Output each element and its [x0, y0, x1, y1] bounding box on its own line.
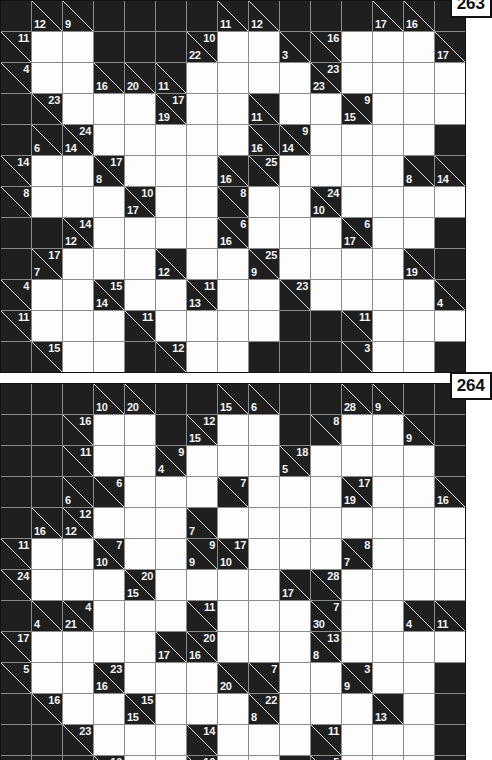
kakuro-entry-cell[interactable]: [32, 280, 62, 310]
kakuro-entry-cell[interactable]: [156, 508, 186, 538]
kakuro-entry-cell[interactable]: [218, 632, 248, 662]
kakuro-entry-cell[interactable]: [94, 94, 124, 124]
kakuro-entry-cell[interactable]: [218, 125, 248, 155]
kakuro-entry-cell[interactable]: [218, 280, 248, 310]
kakuro-entry-cell[interactable]: [32, 570, 62, 600]
kakuro-entry-cell[interactable]: [63, 632, 93, 662]
kakuro-entry-cell[interactable]: [404, 570, 434, 600]
kakuro-entry-cell[interactable]: [125, 539, 155, 569]
kakuro-entry-cell[interactable]: [342, 249, 372, 279]
kakuro-entry-cell[interactable]: [249, 280, 279, 310]
kakuro-entry-cell[interactable]: [218, 311, 248, 341]
kakuro-entry-cell[interactable]: [63, 694, 93, 724]
kakuro-entry-cell[interactable]: [311, 280, 341, 310]
kakuro-entry-cell[interactable]: [63, 63, 93, 93]
kakuro-entry-cell[interactable]: [342, 125, 372, 155]
kakuro-entry-cell[interactable]: [435, 311, 465, 341]
kakuro-entry-cell[interactable]: [342, 446, 372, 476]
kakuro-entry-cell[interactable]: [156, 477, 186, 507]
kakuro-entry-cell[interactable]: [280, 725, 310, 755]
kakuro-entry-cell[interactable]: [32, 156, 62, 186]
kakuro-entry-cell[interactable]: [311, 446, 341, 476]
kakuro-entry-cell[interactable]: [373, 415, 403, 445]
kakuro-entry-cell[interactable]: [373, 601, 403, 631]
kakuro-entry-cell[interactable]: [125, 218, 155, 248]
kakuro-entry-cell[interactable]: [404, 508, 434, 538]
kakuro-entry-cell[interactable]: [435, 63, 465, 93]
kakuro-entry-cell[interactable]: [32, 632, 62, 662]
kakuro-entry-cell[interactable]: [125, 156, 155, 186]
kakuro-entry-cell[interactable]: [218, 756, 248, 760]
kakuro-entry-cell[interactable]: [249, 508, 279, 538]
kakuro-entry-cell[interactable]: [342, 280, 372, 310]
kakuro-entry-cell[interactable]: [187, 63, 217, 93]
kakuro-entry-cell[interactable]: [249, 539, 279, 569]
kakuro-grid-263[interactable]: 1291112171611102231617416201123232317191…: [1, 1, 465, 372]
kakuro-entry-cell[interactable]: [311, 663, 341, 693]
kakuro-entry-cell[interactable]: [311, 508, 341, 538]
kakuro-entry-cell[interactable]: [32, 311, 62, 341]
kakuro-entry-cell[interactable]: [218, 601, 248, 631]
kakuro-entry-cell[interactable]: [125, 632, 155, 662]
kakuro-entry-cell[interactable]: [94, 311, 124, 341]
kakuro-entry-cell[interactable]: [94, 249, 124, 279]
kakuro-entry-cell[interactable]: [373, 508, 403, 538]
kakuro-entry-cell[interactable]: [373, 632, 403, 662]
kakuro-entry-cell[interactable]: [404, 477, 434, 507]
kakuro-entry-cell[interactable]: [373, 218, 403, 248]
kakuro-entry-cell[interactable]: [373, 280, 403, 310]
kakuro-entry-cell[interactable]: [94, 601, 124, 631]
kakuro-entry-cell[interactable]: [404, 63, 434, 93]
kakuro-entry-cell[interactable]: [187, 156, 217, 186]
kakuro-entry-cell[interactable]: [249, 725, 279, 755]
kakuro-entry-cell[interactable]: [94, 632, 124, 662]
kakuro-entry-cell[interactable]: [156, 570, 186, 600]
kakuro-entry-cell[interactable]: [249, 570, 279, 600]
kakuro-entry-cell[interactable]: [404, 311, 434, 341]
kakuro-entry-cell[interactable]: [94, 218, 124, 248]
kakuro-entry-cell[interactable]: [94, 570, 124, 600]
kakuro-entry-cell[interactable]: [342, 570, 372, 600]
kakuro-entry-cell[interactable]: [311, 156, 341, 186]
kakuro-entry-cell[interactable]: [404, 342, 434, 372]
kakuro-entry-cell[interactable]: [280, 218, 310, 248]
kakuro-entry-cell[interactable]: [342, 187, 372, 217]
kakuro-entry-cell[interactable]: [94, 125, 124, 155]
kakuro-entry-cell[interactable]: [373, 446, 403, 476]
kakuro-entry-cell[interactable]: [63, 187, 93, 217]
kakuro-entry-cell[interactable]: [435, 187, 465, 217]
kakuro-entry-cell[interactable]: [435, 570, 465, 600]
kakuro-entry-cell[interactable]: [280, 156, 310, 186]
kakuro-entry-cell[interactable]: [342, 694, 372, 724]
kakuro-entry-cell[interactable]: [249, 632, 279, 662]
kakuro-entry-cell[interactable]: [156, 311, 186, 341]
kakuro-puzzle-264[interactable]: 1020156289161215891194185667171916161212…: [0, 383, 466, 760]
kakuro-entry-cell[interactable]: [435, 539, 465, 569]
kakuro-entry-cell[interactable]: [373, 156, 403, 186]
kakuro-entry-cell[interactable]: [125, 508, 155, 538]
kakuro-entry-cell[interactable]: [125, 415, 155, 445]
kakuro-entry-cell[interactable]: [280, 694, 310, 724]
kakuro-entry-cell[interactable]: [404, 446, 434, 476]
kakuro-entry-cell[interactable]: [280, 249, 310, 279]
kakuro-entry-cell[interactable]: [187, 342, 217, 372]
kakuro-entry-cell[interactable]: [404, 725, 434, 755]
kakuro-entry-cell[interactable]: [373, 94, 403, 124]
kakuro-entry-cell[interactable]: [249, 756, 279, 760]
kakuro-entry-cell[interactable]: [280, 632, 310, 662]
kakuro-entry-cell[interactable]: [373, 32, 403, 62]
kakuro-entry-cell[interactable]: [404, 94, 434, 124]
kakuro-entry-cell[interactable]: [156, 663, 186, 693]
kakuro-entry-cell[interactable]: [249, 63, 279, 93]
kakuro-entry-cell[interactable]: [373, 539, 403, 569]
kakuro-entry-cell[interactable]: [218, 249, 248, 279]
kakuro-entry-cell[interactable]: [32, 63, 62, 93]
kakuro-entry-cell[interactable]: [32, 187, 62, 217]
kakuro-entry-cell[interactable]: [373, 342, 403, 372]
kakuro-entry-cell[interactable]: [342, 508, 372, 538]
kakuro-entry-cell[interactable]: [187, 125, 217, 155]
kakuro-entry-cell[interactable]: [156, 694, 186, 724]
kakuro-entry-cell[interactable]: [156, 125, 186, 155]
kakuro-entry-cell[interactable]: [63, 280, 93, 310]
kakuro-entry-cell[interactable]: [280, 63, 310, 93]
